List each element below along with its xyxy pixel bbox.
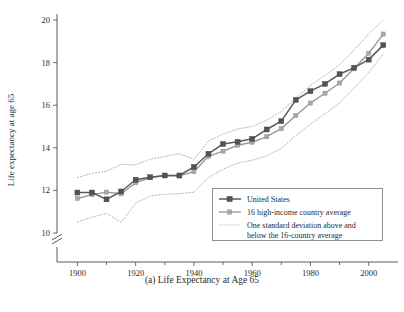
data-point (250, 136, 255, 141)
data-point (75, 196, 79, 200)
figure-container: 101214161820 190019201940196019802000 Li… (0, 0, 404, 312)
data-point (192, 170, 196, 174)
data-point (89, 190, 94, 195)
data-point (367, 51, 371, 55)
data-point (264, 127, 269, 132)
y-tick-label-20: 20 (42, 15, 51, 25)
y-tick-label-14: 14 (42, 143, 51, 153)
data-point (162, 173, 167, 178)
data-point (104, 190, 108, 194)
y-tick-label-12: 12 (42, 185, 51, 195)
legend-swatch-marker-us (227, 196, 232, 201)
legend-label-16-country-average: 16 high-income country average (247, 208, 351, 217)
y-tick-label-10: 10 (42, 228, 51, 238)
data-point (294, 113, 298, 117)
data-point (177, 173, 182, 178)
y-axis-ticks: 101214161820 (42, 15, 58, 238)
legend-label-sd-line1: One standard deviation above and (247, 221, 356, 230)
data-point (323, 91, 327, 95)
data-point (323, 81, 328, 86)
y-axis-label: Life expectancy at age 65 (6, 93, 16, 186)
y-tick-label-18: 18 (42, 58, 51, 68)
data-point (221, 141, 226, 146)
data-point (293, 97, 298, 102)
legend-swatch-marker-avg (227, 210, 231, 214)
x-tick-label-1920: 1920 (127, 268, 144, 278)
data-point (337, 81, 341, 85)
data-point (133, 177, 138, 182)
legend-label-united-states: United States (247, 195, 290, 204)
legend-label-sd-line2: below the 16-country average (247, 231, 343, 240)
data-point (352, 65, 357, 70)
chart-legend[interactable]: United States 16 high-income country ave… (213, 189, 383, 241)
y-axis-break-icon (52, 234, 62, 244)
sd-upper-band-line (77, 20, 383, 178)
data-point (148, 175, 153, 180)
series-markers-16-country-average (75, 32, 385, 201)
data-point (206, 151, 211, 156)
data-point (279, 127, 283, 131)
x-tick-label-2000: 2000 (360, 268, 377, 278)
data-point (221, 149, 225, 153)
data-point (279, 119, 284, 124)
data-point (308, 101, 312, 105)
x-tick-label-1900: 1900 (69, 268, 86, 278)
x-tick-label-1980: 1980 (302, 268, 319, 278)
figure-caption: (a) Life Expectancy at Age 65 (145, 275, 259, 286)
series-markers-united-states (75, 43, 386, 202)
y-tick-label-16: 16 (42, 100, 51, 110)
series-line-united-states (77, 45, 383, 199)
data-point (337, 72, 342, 77)
data-point (381, 32, 385, 36)
data-point (191, 164, 196, 169)
data-point (381, 43, 386, 48)
data-point (75, 190, 80, 195)
series-line-16-country-average (77, 34, 383, 198)
data-point (104, 197, 109, 202)
life-expectancy-chart: 101214161820 190019201940196019802000 Li… (0, 0, 404, 312)
data-point (366, 57, 371, 62)
data-point (119, 189, 124, 194)
data-point (235, 139, 240, 144)
data-point (265, 135, 269, 139)
data-point (308, 89, 313, 94)
